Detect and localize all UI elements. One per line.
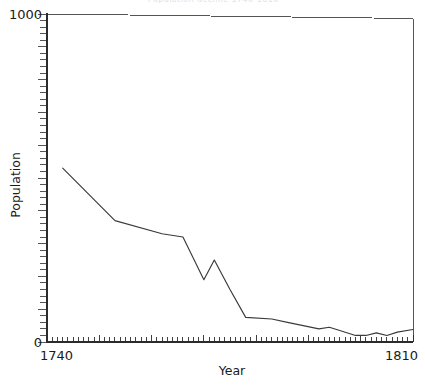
chart-container: Population decline 1740-1810 1000 0 1740…	[0, 0, 425, 385]
x-axis-title: Year	[218, 363, 246, 378]
frame-top-line	[47, 14, 413, 19]
population-series-line	[63, 168, 413, 335]
population-line-chart: 1000 0 1740 1810 Year Population	[0, 0, 425, 385]
y-axis	[38, 13, 47, 342]
plot-frame	[47, 14, 413, 342]
y-axis-max-label: 1000	[9, 7, 42, 22]
y-axis-title: Population	[8, 152, 23, 218]
x-axis	[46, 335, 413, 342]
axis-tick-labels: 1000 0 1740 1810	[9, 7, 418, 363]
x-axis-ticks	[47, 335, 413, 342]
y-axis-ticks	[38, 14, 47, 342]
x-axis-min-label: 1740	[40, 348, 73, 363]
x-axis-max-label: 1810	[385, 348, 418, 363]
